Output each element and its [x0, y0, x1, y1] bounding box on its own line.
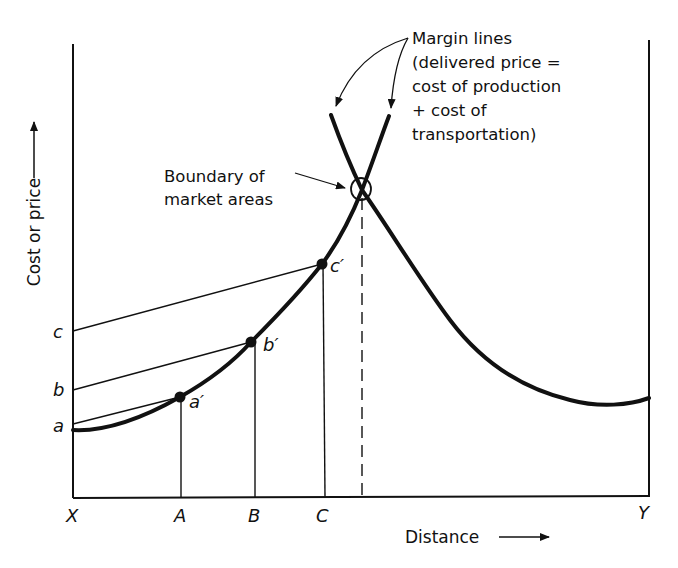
boundary-annotation-line1: Boundary of — [164, 167, 266, 186]
x-label-A: A — [173, 505, 186, 526]
x-axis-baseline — [73, 496, 649, 498]
market-area-diagram: Cost or price c b a a′ b′ c′ X A B C Y D… — [0, 0, 678, 568]
margin-pointer-left-arrow-icon — [336, 38, 408, 106]
point-a-prime — [175, 392, 186, 403]
y-label-c: c — [53, 321, 63, 342]
y-label-a: a — [53, 415, 64, 436]
margin-annotation-line2: (delivered price = — [412, 53, 561, 72]
svg-text:Cost or price: Cost or price — [24, 178, 44, 286]
boundary-pointer-arrow-icon — [295, 173, 345, 188]
x-label-B: B — [248, 505, 260, 526]
dropline-C — [323, 264, 325, 497]
x-label-C: C — [316, 505, 329, 526]
margin-line-from-Y — [331, 115, 649, 405]
boundary-annotation-line2: market areas — [164, 190, 273, 209]
y-label-b: b — [53, 379, 64, 400]
point-b-prime — [246, 337, 257, 348]
label-c-prime: c′ — [330, 255, 344, 276]
y-axis-title: Cost or price — [24, 178, 44, 286]
margin-annotation-line5: transportation) — [412, 125, 536, 144]
margin-annotation-line1: Margin lines — [412, 29, 512, 48]
margin-annotation-line4: + cost of — [412, 101, 488, 120]
x-label-Y: Y — [638, 502, 651, 523]
transport-line-c — [73, 264, 322, 331]
margin-pointer-right-arrow-icon — [391, 38, 408, 108]
x-axis-title: Distance — [405, 527, 479, 547]
label-a-prime: a′ — [189, 391, 204, 412]
x-label-X: X — [65, 505, 79, 526]
margin-annotation-line3: cost of production — [412, 77, 561, 96]
point-c-prime — [317, 259, 328, 270]
label-b-prime: b′ — [263, 334, 279, 355]
